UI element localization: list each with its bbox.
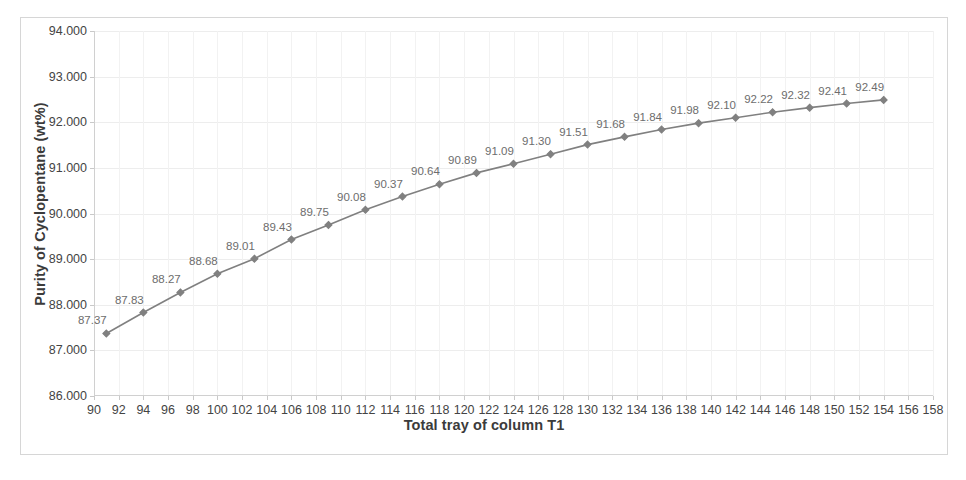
- plot-area: 86.00087.00088.00089.00090.00091.00092.0…: [94, 31, 933, 396]
- x-tick-label: 94: [136, 403, 150, 417]
- data-point-marker: [251, 255, 258, 262]
- data-point-label: 90.89: [448, 154, 477, 166]
- x-tick-mark: [514, 396, 515, 400]
- x-tick-label: 138: [676, 403, 697, 417]
- x-tick-mark: [538, 396, 539, 400]
- x-tick-mark: [193, 396, 194, 400]
- x-tick-mark: [859, 396, 860, 400]
- data-point-label: 91.98: [670, 104, 699, 116]
- data-point-marker: [436, 181, 443, 188]
- data-point-marker: [695, 120, 702, 127]
- x-tick-label: 114: [380, 403, 400, 417]
- x-tick-label: 102: [232, 403, 253, 417]
- data-point-label: 87.83: [115, 294, 144, 306]
- data-point-marker: [880, 96, 887, 103]
- data-point-label: 91.51: [559, 126, 588, 138]
- x-tick-label: 142: [725, 403, 746, 417]
- x-tick-mark: [760, 396, 761, 400]
- data-point-marker: [288, 236, 295, 243]
- x-tick-label: 134: [626, 403, 647, 417]
- chart-frame: Purity of Cyclopentane (wt%) Total tray …: [20, 17, 948, 455]
- data-point-label: 92.22: [744, 93, 773, 105]
- y-tick-label: 89.000: [49, 252, 87, 266]
- x-tick-label: 156: [898, 403, 919, 417]
- y-tick-label: 92.000: [49, 115, 87, 129]
- x-tick-mark: [933, 396, 934, 400]
- x-tick-label: 150: [824, 403, 845, 417]
- x-tick-label: 104: [256, 403, 277, 417]
- y-tick-label: 88.000: [49, 298, 87, 312]
- data-point-marker: [325, 222, 332, 229]
- x-tick-label: 128: [552, 403, 573, 417]
- data-point-label: 91.68: [596, 118, 625, 130]
- x-tick-mark: [341, 396, 342, 400]
- data-series-line: [94, 31, 933, 396]
- x-tick-label: 116: [405, 403, 425, 417]
- x-tick-label: 132: [602, 403, 623, 417]
- x-tick-label: 148: [799, 403, 820, 417]
- x-tick-mark: [217, 396, 218, 400]
- x-tick-mark: [267, 396, 268, 400]
- series-polyline: [106, 100, 883, 334]
- x-tick-label: 120: [454, 403, 475, 417]
- x-tick-mark: [390, 396, 391, 400]
- x-tick-mark: [810, 396, 811, 400]
- data-point-label: 88.68: [189, 255, 218, 267]
- data-point-label: 89.43: [263, 221, 292, 233]
- y-axis-title: Purity of Cyclopentane (wt%): [32, 39, 48, 369]
- y-tick-label: 87.000: [49, 343, 87, 357]
- x-tick-label: 106: [281, 403, 302, 417]
- data-point-label: 88.27: [152, 273, 181, 285]
- data-point-marker: [510, 160, 517, 167]
- x-tick-label: 140: [700, 403, 721, 417]
- x-tick-mark: [588, 396, 589, 400]
- x-tick-mark: [291, 396, 292, 400]
- x-tick-label: 100: [207, 403, 228, 417]
- x-tick-mark: [662, 396, 663, 400]
- data-point-label: 90.08: [337, 191, 366, 203]
- data-point-marker: [806, 104, 813, 111]
- data-point-marker: [621, 133, 628, 140]
- y-tick-label: 94.000: [49, 24, 87, 38]
- x-tick-mark: [365, 396, 366, 400]
- data-point-label: 89.01: [226, 240, 255, 252]
- x-tick-label: 124: [503, 403, 524, 417]
- x-tick-mark: [637, 396, 638, 400]
- x-tick-mark: [884, 396, 885, 400]
- data-point-marker: [103, 330, 110, 337]
- data-point-marker: [547, 151, 554, 158]
- x-tick-label: 110: [331, 403, 351, 417]
- x-tick-label: 152: [849, 403, 870, 417]
- data-point-label: 91.84: [633, 111, 662, 123]
- x-tick-mark: [168, 396, 169, 400]
- x-tick-mark: [834, 396, 835, 400]
- x-tick-label: 154: [873, 403, 894, 417]
- x-tick-mark: [563, 396, 564, 400]
- x-tick-mark: [143, 396, 144, 400]
- x-tick-label: 146: [775, 403, 796, 417]
- x-tick-mark: [415, 396, 416, 400]
- data-point-marker: [362, 206, 369, 213]
- data-point-label: 91.30: [522, 135, 551, 147]
- x-tick-mark: [489, 396, 490, 400]
- data-point-label: 90.37: [374, 178, 403, 190]
- data-point-marker: [584, 141, 591, 148]
- data-point-label: 87.37: [78, 314, 107, 326]
- x-tick-label: 122: [478, 403, 499, 417]
- x-tick-label: 90: [87, 403, 101, 417]
- data-point-marker: [732, 114, 739, 121]
- x-tick-label: 144: [750, 403, 771, 417]
- x-tick-label: 92: [112, 403, 126, 417]
- data-point-label: 92.49: [855, 81, 884, 93]
- gridline-vertical: [933, 31, 934, 396]
- y-tick-label: 90.000: [49, 207, 87, 221]
- x-tick-mark: [242, 396, 243, 400]
- x-tick-label: 112: [355, 403, 375, 417]
- x-tick-mark: [785, 396, 786, 400]
- x-tick-label: 126: [528, 403, 549, 417]
- data-point-marker: [473, 169, 480, 176]
- data-point-label: 92.10: [707, 99, 736, 111]
- x-tick-label: 136: [651, 403, 672, 417]
- data-point-marker: [177, 289, 184, 296]
- data-point-label: 90.64: [411, 165, 440, 177]
